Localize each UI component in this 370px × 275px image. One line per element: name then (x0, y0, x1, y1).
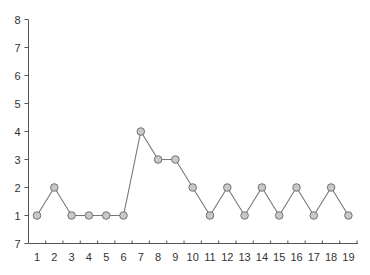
x-tick-label: 3 (69, 251, 75, 263)
data-point-marker (327, 184, 335, 192)
data-series (33, 128, 352, 220)
x-tick-label: 17 (308, 251, 320, 263)
x-tick-label: 2 (51, 251, 57, 263)
data-point-marker (310, 212, 318, 220)
data-point-marker (33, 212, 41, 220)
data-point-marker (345, 212, 353, 220)
y-tick-label: 7 (14, 238, 20, 250)
y-tick-label: 3 (14, 154, 20, 166)
line-chart: 712345678 12345678910111213141516171819 (0, 0, 370, 275)
data-point-marker (137, 128, 145, 136)
y-tick-label: 5 (14, 98, 20, 110)
y-axis: 712345678 (14, 14, 28, 250)
y-tick-label: 8 (14, 14, 20, 26)
data-point-marker (102, 212, 110, 220)
data-point-marker (189, 184, 197, 192)
data-point-marker (275, 212, 283, 220)
x-tick-label: 6 (120, 251, 126, 263)
data-point-marker (293, 184, 301, 192)
x-tick-label: 4 (86, 251, 92, 263)
data-point-marker (85, 212, 93, 220)
chart-canvas: 712345678 12345678910111213141516171819 (0, 0, 370, 275)
x-tick-label: 11 (204, 251, 215, 263)
x-tick-label: 9 (172, 251, 178, 263)
data-point-marker (120, 212, 128, 220)
data-point-marker (206, 212, 214, 220)
y-tick-label: 4 (14, 126, 20, 138)
data-point-marker (172, 156, 180, 164)
x-tick-label: 19 (342, 251, 354, 263)
x-tick-label: 13 (238, 251, 250, 263)
x-tick-label: 10 (187, 251, 199, 263)
y-tick-label: 7 (14, 42, 20, 54)
y-tick-label: 2 (14, 182, 20, 194)
data-point-marker (241, 212, 249, 220)
x-tick-label: 16 (290, 251, 302, 263)
x-tick-label: 14 (256, 251, 268, 263)
x-tick-label: 7 (138, 251, 144, 263)
x-tick-label: 18 (325, 251, 337, 263)
x-tick-label: 8 (155, 251, 161, 263)
y-tick-label: 6 (14, 70, 20, 82)
x-tick-label: 5 (103, 251, 109, 263)
data-point-marker (258, 184, 266, 192)
x-tick-label: 15 (273, 251, 285, 263)
x-axis: 12345678910111213141516171819 (29, 241, 359, 263)
data-point-marker (68, 212, 76, 220)
x-tick-label: 1 (34, 251, 40, 263)
data-point-marker (224, 184, 232, 192)
series-line (37, 132, 348, 216)
data-point-marker (51, 184, 59, 192)
x-tick-label: 12 (221, 251, 233, 263)
data-point-marker (154, 156, 162, 164)
y-tick-label: 1 (14, 210, 20, 222)
